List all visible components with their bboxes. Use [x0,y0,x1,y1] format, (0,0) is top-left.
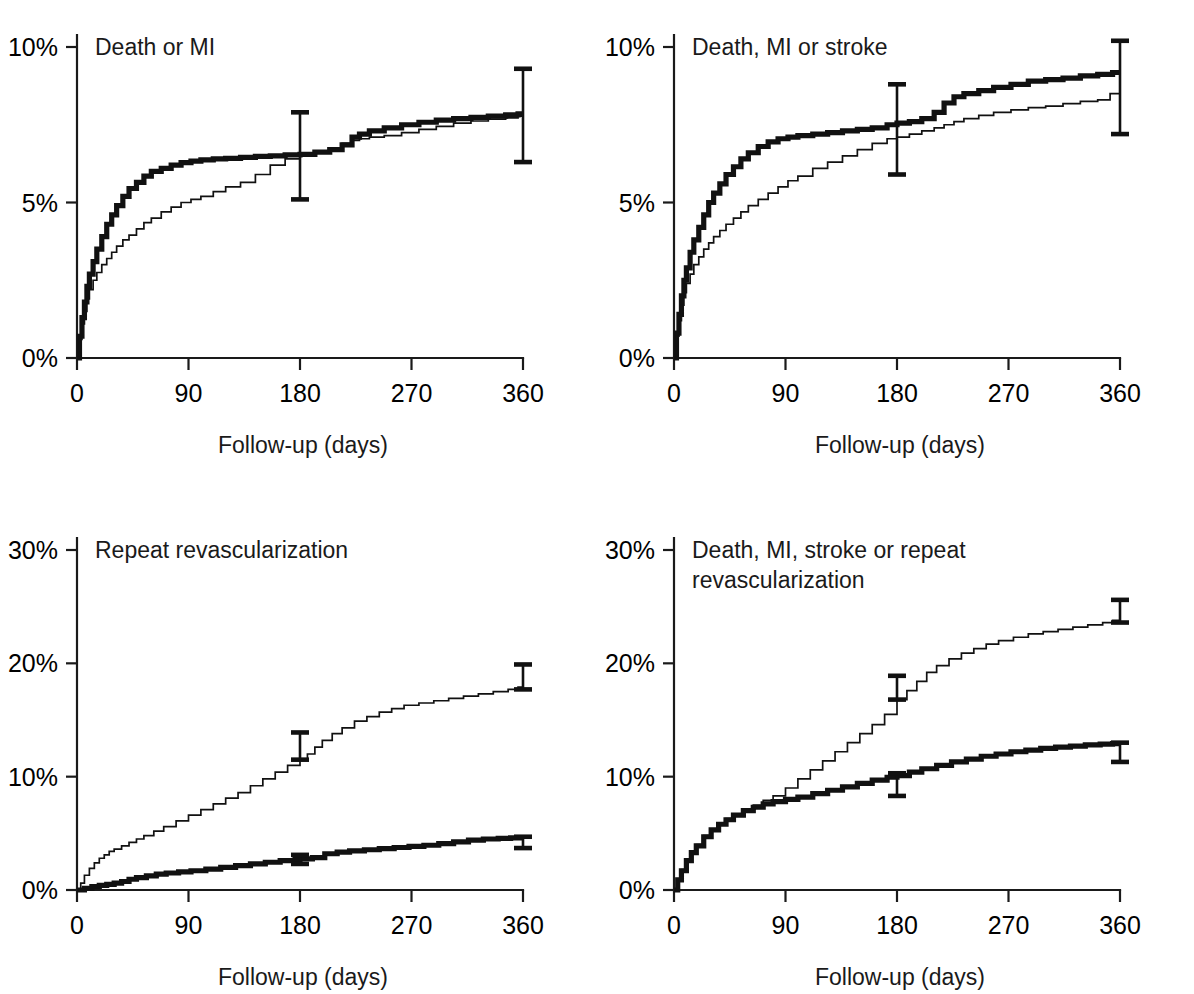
panel-p2-plot: 0%5%10%090180270360Follow-up (days)Death… [597,0,1194,497]
x-tick-label: 0 [667,379,681,407]
x-tick-label: 180 [876,911,918,939]
error-bar [888,84,906,174]
error-bar [291,732,309,759]
km-curve-thin [674,620,1120,890]
y-tick-label: 20% [605,649,655,677]
x-tick-label: 180 [279,379,321,407]
panel-title: Death, MI or stroke [692,34,888,60]
y-tick-label: 0% [22,344,58,372]
x-tick-label: 0 [70,379,84,407]
y-tick-label: 0% [619,876,655,904]
x-tick-label: 270 [391,911,433,939]
error-bar [514,837,532,848]
x-tick-label: 90 [772,379,800,407]
panel-death-mi-or-stroke: 0%5%10%090180270360Follow-up (days)Death… [597,0,1194,497]
panel-title: Death or MI [95,34,215,60]
x-axis-label: Follow-up (days) [815,964,985,990]
x-tick-label: 0 [70,911,84,939]
x-tick-label: 180 [279,911,321,939]
y-tick-label: 10% [605,33,655,61]
x-tick-label: 270 [391,379,433,407]
panel-death-mi-stroke-or-repeat-revascularization: 0%10%20%30%090180270360Follow-up (days)D… [597,497,1194,994]
panel-repeat-revascularization: 0%10%20%30%090180270360Follow-up (days)R… [0,497,597,994]
kaplan-meier-figure: 0%5%10%090180270360Follow-up (days)Death… [0,0,1194,994]
y-tick-label: 30% [8,536,58,564]
error-bar [888,676,906,700]
x-tick-label: 360 [502,911,544,939]
x-tick-label: 0 [667,911,681,939]
x-axis-label: Follow-up (days) [218,964,388,990]
y-tick-label: 30% [605,536,655,564]
panel-death-or-mi: 0%5%10%090180270360Follow-up (days)Death… [0,0,597,497]
y-tick-label: 10% [8,33,58,61]
x-tick-label: 270 [988,379,1030,407]
error-bar [1111,600,1129,623]
y-tick-label: 5% [619,189,655,217]
x-axis-label: Follow-up (days) [815,432,985,458]
y-tick-label: 0% [22,876,58,904]
panel-title: Death, MI, stroke or repeat [692,537,966,563]
km-curve-thick [674,744,1120,890]
x-axis-label: Follow-up (days) [218,432,388,458]
x-tick-label: 360 [1099,379,1141,407]
panel-title-line2: revascularization [692,567,865,593]
panel-p4-plot: 0%10%20%30%090180270360Follow-up (days)D… [597,497,1194,994]
panel-p1-plot: 0%5%10%090180270360Follow-up (days)Death… [0,0,597,497]
y-tick-label: 0% [619,344,655,372]
x-tick-label: 90 [772,911,800,939]
error-bar [514,664,532,689]
x-tick-label: 90 [175,911,203,939]
x-tick-label: 270 [988,911,1030,939]
x-tick-label: 90 [175,379,203,407]
panel-p3-plot: 0%10%20%30%090180270360Follow-up (days)R… [0,497,597,994]
x-tick-label: 360 [502,379,544,407]
panel-title: Repeat revascularization [95,537,348,563]
y-tick-label: 5% [22,189,58,217]
x-tick-label: 180 [876,379,918,407]
y-tick-label: 10% [605,763,655,791]
error-bar [1111,41,1129,134]
x-tick-label: 360 [1099,911,1141,939]
y-tick-label: 20% [8,649,58,677]
y-tick-label: 10% [8,763,58,791]
